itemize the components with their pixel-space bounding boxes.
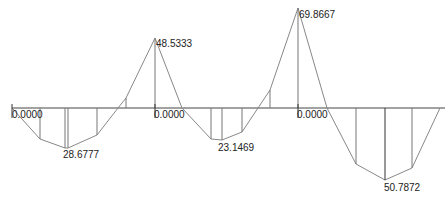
label-support-3-peak: 69.8667 bbox=[299, 9, 336, 20]
label-support-1: 0.0000 bbox=[12, 109, 43, 120]
label-support-2: 0.0000 bbox=[154, 109, 185, 120]
label-span-1-max: 28.6777 bbox=[63, 149, 100, 160]
label-span-2-max: 23.1469 bbox=[218, 142, 255, 153]
moment-diagram: 0.0000 28.6777 48.5333 0.0000 23.1469 69… bbox=[0, 0, 447, 202]
label-support-2-peak: 48.5333 bbox=[156, 38, 193, 49]
label-support-3: 0.0000 bbox=[297, 109, 328, 120]
label-span-3-max: 50.7872 bbox=[384, 182, 421, 193]
